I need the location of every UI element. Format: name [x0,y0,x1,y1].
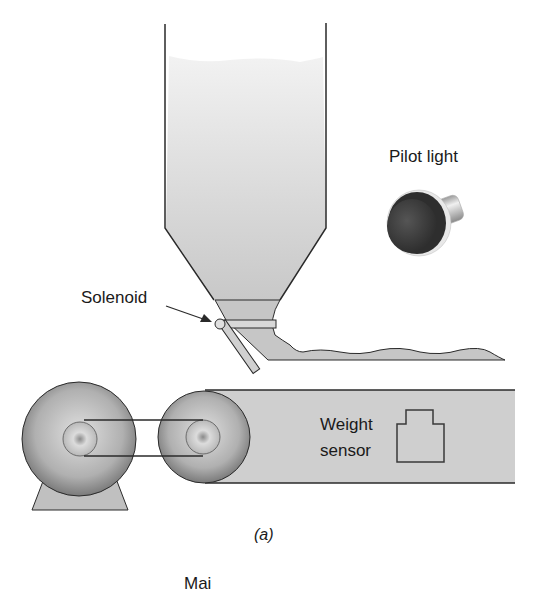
weight-sensor-label-line1: Weight [320,412,373,438]
solenoid-pointer [166,306,212,322]
weight-sensor-label: Weight sensor [320,412,373,464]
weight-sensor-label-line2: sensor [320,438,373,464]
hopper [165,23,326,300]
pilot-light-label: Pilot light [389,147,458,167]
cut-off-label: Mai [184,574,211,593]
drive-pulley [158,391,250,483]
solenoid-label: Solenoid [81,288,147,308]
figure-caption: (a) [254,526,274,544]
material-pile [215,300,505,360]
motor [22,382,136,496]
pilot-light-icon [387,190,465,256]
